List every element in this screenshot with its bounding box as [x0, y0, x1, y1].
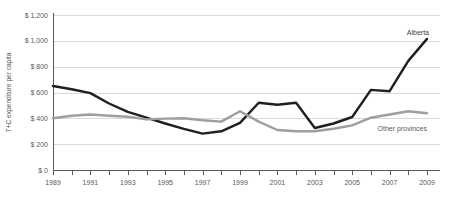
line-chart: T+C expenditure per capita $ 0$ 200$ 400…: [0, 0, 450, 203]
x-tick-label: 2005: [344, 179, 360, 186]
x-tick-label: 1999: [232, 179, 248, 186]
x-tick-label: 1995: [157, 179, 173, 186]
x-tick-label: 1991: [83, 179, 99, 186]
y-tick-label: $ 800: [30, 63, 48, 70]
chart-plot-area: $ 0$ 200$ 400$ 600$ 800$ 1,000$ 1,200198…: [25, 12, 440, 187]
y-tick-label: $ 1,200: [25, 12, 48, 19]
y-tick-label: $ 1,000: [25, 37, 48, 44]
x-tick-label: 1997: [195, 179, 211, 186]
x-tick-label: 2009: [419, 179, 435, 186]
y-tick-label: $ 400: [30, 115, 48, 122]
alberta-series-line: [53, 39, 427, 134]
x-tick-label: 2007: [382, 179, 398, 186]
y-axis-title: T+C expenditure per capita: [5, 52, 13, 132]
y-tick-label: $ 0: [38, 167, 48, 174]
alberta-series-label: Alberta: [407, 29, 429, 36]
other-provinces-series-label: Other provinces: [378, 125, 428, 133]
x-tick-label: 1993: [120, 179, 136, 186]
chart-svg: T+C expenditure per capita $ 0$ 200$ 400…: [0, 0, 450, 203]
x-tick-label: 1989: [45, 179, 61, 186]
x-tick-label: 2001: [270, 179, 286, 186]
x-tick-label: 2003: [307, 179, 323, 186]
y-tick-label: $ 200: [30, 141, 48, 148]
y-tick-label: $ 600: [30, 89, 48, 96]
